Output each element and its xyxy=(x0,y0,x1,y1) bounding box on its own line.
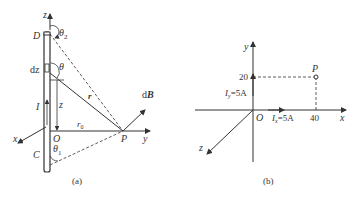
label-O-b: O xyxy=(256,112,263,123)
z-axis-b xyxy=(207,110,253,154)
caption-a: (a) xyxy=(72,176,82,186)
label-Ix: Ix=5A xyxy=(271,113,294,124)
x-axis xyxy=(18,127,46,143)
label-x-axis: x xyxy=(12,133,18,144)
dB-arrow xyxy=(123,110,145,131)
label-Iy: Iy=5A xyxy=(224,88,247,99)
label-I: I xyxy=(35,101,40,112)
label-r0: r0 xyxy=(77,119,84,130)
label-P: P xyxy=(120,133,127,144)
point-P xyxy=(314,75,318,79)
label-z-axis: z xyxy=(42,9,47,20)
label-y-axis-b: y xyxy=(243,41,249,52)
dashed-C-P xyxy=(50,131,123,165)
label-theta: θ xyxy=(59,61,64,72)
label-dz: dz xyxy=(30,64,40,75)
label-theta2: θ2 xyxy=(59,27,68,41)
diagram-canvas: z D θ2 dz θ r I z r0 O P y x θ1 C dB (a)… xyxy=(0,0,356,201)
dz-element xyxy=(45,64,49,72)
label-x-tick: 40 xyxy=(310,113,320,123)
caption-b: (b) xyxy=(263,176,274,186)
dashed-D-P xyxy=(50,34,123,131)
label-r: r xyxy=(88,91,92,101)
label-P-b: P xyxy=(311,63,318,74)
label-z: z xyxy=(58,99,63,110)
theta1-arc xyxy=(50,156,58,161)
label-theta1: θ1 xyxy=(53,143,62,157)
label-C: C xyxy=(33,149,40,160)
label-dB: dB xyxy=(142,89,154,100)
label-D: D xyxy=(32,30,41,41)
label-z-axis-b: z xyxy=(198,142,203,153)
label-y-tick: 20 xyxy=(239,72,249,82)
label-x-axis-b: x xyxy=(339,112,345,123)
label-y-axis: y xyxy=(142,133,148,144)
figure-b: y 20 P Iy=5A O Ix=5A 40 x z (b) xyxy=(195,41,346,186)
figure-a: z D θ2 dz θ r I z r0 O P y x θ1 C dB (a) xyxy=(12,9,154,186)
